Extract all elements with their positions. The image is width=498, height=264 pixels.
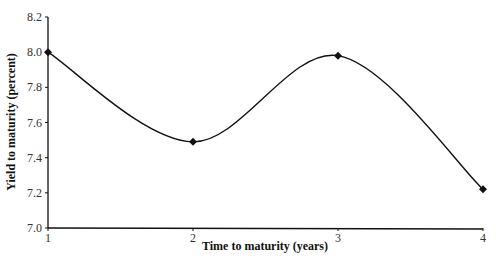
data-point-markers — [44, 48, 487, 193]
x-axis-title: Time to maturity (years) — [202, 239, 328, 253]
x-axis-line — [48, 228, 483, 229]
diamond-marker-icon — [189, 138, 197, 146]
yield-curve-line — [48, 52, 483, 189]
y-tick-label: 7.0 — [27, 221, 42, 235]
diamond-marker-icon — [334, 52, 342, 60]
y-tick-label: 7.4 — [27, 151, 42, 165]
x-tick-label: 1 — [45, 231, 51, 245]
y-axis-ticks: 7.07.27.47.67.88.08.2 — [27, 10, 48, 235]
x-tick-label: 2 — [190, 231, 196, 245]
y-tick-label: 8.0 — [27, 45, 42, 59]
y-axis-title: Yield to maturity (percent) — [4, 53, 18, 191]
y-tick-label: 8.2 — [27, 10, 42, 24]
diamond-marker-icon — [44, 48, 52, 56]
yield-curve-chart: 7.07.27.47.67.88.08.2 1234 Time to matur… — [0, 0, 498, 264]
y-tick-label: 7.6 — [27, 116, 42, 130]
y-tick-label: 7.2 — [27, 186, 42, 200]
x-tick-label: 4 — [480, 231, 486, 245]
x-tick-label: 3 — [335, 231, 341, 245]
y-tick-label: 7.8 — [27, 80, 42, 94]
